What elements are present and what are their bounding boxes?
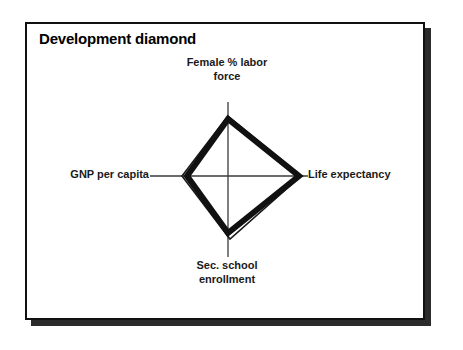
chart-frame: Development diamond Female % labor force… [25,22,425,320]
figure-page: Development diamond Female % labor force… [0,0,463,350]
axis-label-gnp-per-capita: GNP per capita [29,168,149,182]
radar-plot-area: Female % labor force Life expectancy Sec… [27,24,427,322]
axis-label-sec-school-enrollment: Sec. school enrollment [167,259,287,287]
axis-label-female-labor-force: Female % labor force [167,56,287,84]
axis-label-life-expectancy: Life expectancy [308,168,428,182]
